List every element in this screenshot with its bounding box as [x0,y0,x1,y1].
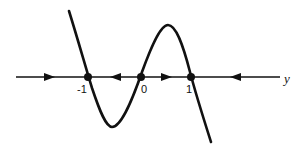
tick-label-neg1: -1 [77,83,87,95]
tick-label-0: 0 [141,83,147,95]
axis-label: y [282,71,290,86]
equilibrium-point-neg1 [84,73,92,81]
phase-line-diagram: -1 0 1 y [0,0,303,153]
arrow-right-icon [161,73,172,81]
equilibrium-point-0 [137,73,145,81]
arrow-left-icon [230,73,241,81]
tick-label-1: 1 [186,83,192,95]
arrow-right-icon [44,73,55,81]
equilibrium-point-1 [187,73,195,81]
arrow-left-icon [110,73,121,81]
